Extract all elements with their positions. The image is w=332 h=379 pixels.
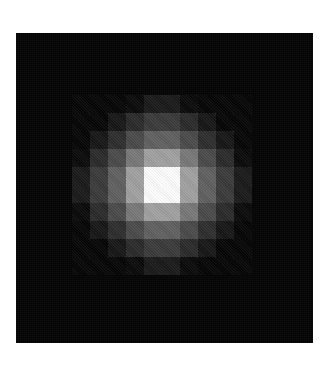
heatmap-cell	[180, 221, 198, 239]
heatmap-cell	[126, 257, 144, 275]
heatmap-cell	[108, 95, 126, 113]
heatmap-cell	[90, 239, 108, 257]
heatmap-cell	[180, 257, 198, 275]
heatmap-cell	[234, 167, 252, 185]
heatmap-cell	[90, 131, 108, 149]
heatmap-cell	[234, 131, 252, 149]
heatmap-cell	[234, 149, 252, 167]
heatmap-cell	[198, 257, 216, 275]
heatmap-cell	[234, 95, 252, 113]
heatmap-cell	[216, 203, 234, 221]
heatmap-cell	[72, 221, 90, 239]
heatmap-cell	[162, 221, 180, 239]
heatmap-cell	[162, 239, 180, 257]
heatmap-cell	[180, 203, 198, 221]
heatmap-cell	[126, 113, 144, 131]
heatmap-cell	[126, 185, 144, 203]
heatmap-cell	[126, 95, 144, 113]
heatmap-cell	[144, 185, 162, 203]
heatmap-cell	[180, 113, 198, 131]
heatmap-cell	[144, 167, 162, 185]
heatmap-cell	[162, 113, 180, 131]
heatmap-cell	[234, 113, 252, 131]
heatmap-cell	[162, 167, 180, 185]
heatmap-cell	[180, 239, 198, 257]
heatmap-cell	[234, 203, 252, 221]
heatmap-cell	[72, 131, 90, 149]
heatmap-cell	[216, 239, 234, 257]
heatmap-cell	[90, 113, 108, 131]
heatmap-cell	[72, 257, 90, 275]
heatmap-cell	[108, 185, 126, 203]
heatmap-cell	[72, 203, 90, 221]
heatmap-cell	[198, 113, 216, 131]
heatmap-cell	[180, 131, 198, 149]
heatmap-cell	[90, 167, 108, 185]
heatmap-cell	[126, 149, 144, 167]
heatmap-cell	[162, 203, 180, 221]
heatmap-cell	[72, 239, 90, 257]
heatmap-cell	[180, 167, 198, 185]
heatmap-cell	[198, 203, 216, 221]
heatmap-cell	[216, 257, 234, 275]
heatmap-cell	[108, 239, 126, 257]
heatmap-cell	[144, 149, 162, 167]
heatmap-cell	[216, 95, 234, 113]
heatmap-cell	[90, 221, 108, 239]
heatmap-cell	[144, 221, 162, 239]
heatmap-cell	[162, 131, 180, 149]
heatmap-cell	[162, 185, 180, 203]
heatmap-cell	[126, 167, 144, 185]
heatmap-cell	[108, 167, 126, 185]
heatmap-cell	[180, 185, 198, 203]
heatmap-cell	[72, 149, 90, 167]
heatmap-cell	[144, 95, 162, 113]
heatmap-cell	[108, 221, 126, 239]
heatmap-cell	[144, 257, 162, 275]
heatmap-cell	[198, 185, 216, 203]
heatmap-cell	[216, 149, 234, 167]
heatmap-cell	[126, 239, 144, 257]
image-panel	[16, 33, 313, 343]
figure-root	[0, 0, 332, 379]
heatmap-cell	[108, 203, 126, 221]
heatmap-cell	[198, 221, 216, 239]
heatmap-cell	[234, 257, 252, 275]
heatmap-cell	[90, 257, 108, 275]
heatmap-cell	[90, 185, 108, 203]
heatmap-cell	[144, 131, 162, 149]
heatmap-cell	[72, 185, 90, 203]
heatmap-cell	[216, 131, 234, 149]
heatmap-cell	[198, 95, 216, 113]
heatmap-cell	[108, 149, 126, 167]
heatmap-cell	[180, 149, 198, 167]
heatmap-cell	[216, 185, 234, 203]
heatmap-cell	[72, 167, 90, 185]
heatmap-cell	[72, 113, 90, 131]
heatmap-cell	[234, 185, 252, 203]
heatmap-cell	[234, 239, 252, 257]
heatmap-cell	[162, 257, 180, 275]
pixel-grid-heatmap	[72, 95, 252, 275]
heatmap-cell	[198, 149, 216, 167]
heatmap-cell	[90, 203, 108, 221]
heatmap-cell	[198, 167, 216, 185]
heatmap-cell	[126, 221, 144, 239]
heatmap-cell	[144, 113, 162, 131]
heatmap-cell	[90, 95, 108, 113]
heatmap-cell	[162, 95, 180, 113]
heatmap-cell	[108, 257, 126, 275]
heatmap-cell	[216, 167, 234, 185]
heatmap-cell	[108, 113, 126, 131]
heatmap-cell	[144, 203, 162, 221]
heatmap-cell	[234, 221, 252, 239]
heatmap-cell	[108, 131, 126, 149]
heatmap-cell	[126, 131, 144, 149]
heatmap-cell	[144, 239, 162, 257]
heatmap-cell	[216, 221, 234, 239]
heatmap-cell	[198, 131, 216, 149]
heatmap-cell	[90, 149, 108, 167]
heatmap-cell	[180, 95, 198, 113]
heatmap-cell	[198, 239, 216, 257]
heatmap-cell	[126, 203, 144, 221]
